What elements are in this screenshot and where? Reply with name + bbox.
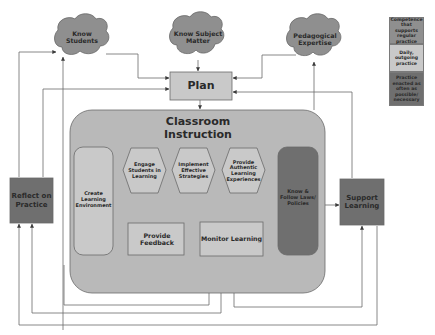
plan-label: Plan: [170, 72, 232, 100]
provide-feedback-label: Provide Feedback: [142, 223, 172, 255]
implement-strategies-label: Implement Effective Strategies: [174, 153, 213, 189]
legend-item-as-needed: Practice enacted as often as possible/ n…: [389, 72, 424, 106]
legend-item-competence: Competence that supports regular practic…: [389, 17, 424, 44]
cloud-know-students-label: Know Students: [56, 26, 108, 48]
cloud-pedagogical-expertise-label: Pedagogical Expertise: [290, 26, 340, 52]
know-follow-laws-label: Know & Follow Laws/ Policies: [280, 178, 316, 218]
create-learning-environment-label: Create Learning Environment: [74, 180, 113, 220]
teaching-practice-diagram: [0, 0, 435, 335]
support-learning-label: Support Learning: [340, 179, 384, 225]
engage-students-label: Engage Students in Learning: [125, 153, 164, 189]
cloud-know-subject-matter-label: Know Subject Matter: [172, 24, 224, 50]
reflect-on-practice-label: Reflect on Practice: [10, 178, 53, 223]
classroom-instruction-title: Classroom Instruction: [150, 112, 246, 146]
monitor-learning-label: Monitor Learning: [200, 222, 263, 256]
provide-authentic-label: Provide Authentic Learning Experiences: [224, 150, 263, 192]
legend-item-daily: Daily, outgoing practice: [389, 44, 424, 72]
